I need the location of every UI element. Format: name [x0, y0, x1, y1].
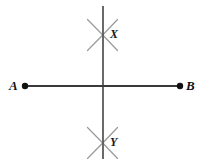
- geometry-figure: A B X Y: [0, 0, 204, 159]
- point-b-dot: [177, 83, 183, 89]
- point-label-a: A: [9, 79, 18, 92]
- construction-drawing: [0, 0, 204, 159]
- point-label-b: B: [186, 79, 195, 92]
- arc-label-y: Y: [110, 136, 117, 148]
- point-a-dot: [22, 83, 28, 89]
- arc-label-x: X: [110, 28, 118, 40]
